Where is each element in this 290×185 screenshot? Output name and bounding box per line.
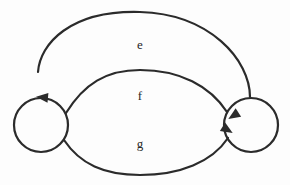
- left-state-node[interactable]: [14, 98, 68, 152]
- edge-g-label: g: [137, 136, 144, 151]
- edge-g-path[interactable]: [64, 138, 228, 175]
- edge-e-group[interactable]: e: [36, 12, 250, 103]
- edge-e-path[interactable]: [38, 12, 250, 97]
- state-transition-diagram: e f g: [0, 0, 290, 185]
- edge-g-arrowhead: [220, 122, 235, 137]
- diagram-svg-canvas: e f g: [0, 0, 290, 185]
- nodes-group: [14, 98, 278, 152]
- edges-group: e f g: [36, 12, 250, 175]
- edge-e-label: e: [137, 37, 143, 52]
- edge-f-label: f: [138, 88, 143, 103]
- edge-f-group[interactable]: f: [66, 70, 241, 123]
- edge-g-group[interactable]: g: [64, 122, 235, 175]
- edge-f-path[interactable]: [66, 70, 227, 113]
- right-state-node[interactable]: [224, 98, 278, 152]
